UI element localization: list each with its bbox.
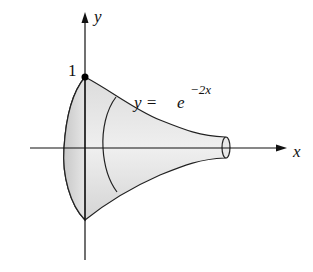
- point-label: 1: [68, 61, 77, 80]
- equation-base: e: [177, 93, 185, 112]
- equation-exponent: −2x: [190, 82, 211, 97]
- x-axis-label: x: [292, 142, 301, 161]
- y-axis-label: y: [92, 7, 102, 26]
- x-axis-arrow-icon: [276, 145, 287, 152]
- point-marker: [82, 74, 89, 81]
- diagram: y x 1 y = e −2x: [0, 0, 313, 272]
- surface-diagram: y x 1 y = e −2x: [0, 0, 313, 272]
- y-axis-arrow-icon: [82, 12, 89, 23]
- equation-lhs: y =: [132, 93, 162, 112]
